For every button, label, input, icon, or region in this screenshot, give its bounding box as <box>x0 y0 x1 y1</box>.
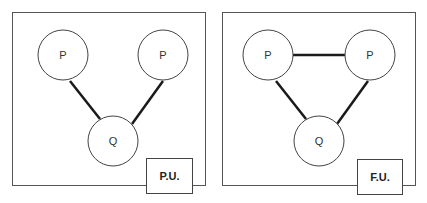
diagram-canvas: P P Q P.U. P P Q F.U. <box>0 0 427 203</box>
node-q-label: Q <box>315 135 324 147</box>
panel-left-tag-label: P.U. <box>160 170 180 182</box>
panel-left: P P Q P.U. <box>13 13 206 194</box>
node-p1-label: P <box>59 49 66 61</box>
node-q-label: Q <box>109 135 118 147</box>
node-p2-label: P <box>366 49 373 61</box>
panel-right-tag-label: F.U. <box>370 171 390 183</box>
node-p2-label: P <box>159 49 166 61</box>
node-p1-label: P <box>264 49 271 61</box>
panel-right: P P Q F.U. <box>223 13 416 195</box>
